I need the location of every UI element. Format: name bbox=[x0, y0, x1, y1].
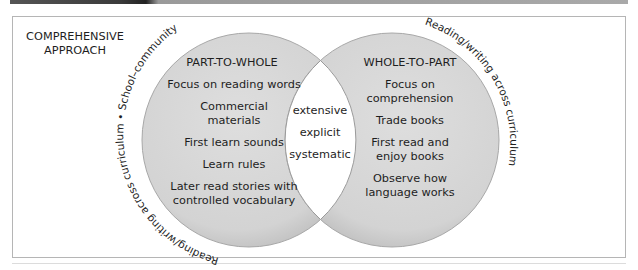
left-heading: PART-TO-WHOLE bbox=[186, 56, 277, 69]
intersection-item: extensive bbox=[293, 104, 348, 117]
left-item: Commercial bbox=[200, 100, 268, 113]
right-item: enjoy books bbox=[376, 150, 444, 163]
left-item: Focus on reading words bbox=[167, 78, 301, 91]
right-item: Trade books bbox=[375, 114, 444, 127]
diagram-title-line1: COMPREHENSIVE bbox=[26, 30, 124, 43]
left-item: Later read stories with bbox=[170, 180, 297, 193]
intersection-item: explicit bbox=[300, 126, 341, 139]
venn-diagram: COMPREHENSIVE APPROACH PART-TO-WHOLE Foc… bbox=[0, 0, 638, 270]
right-item: Observe how bbox=[373, 172, 447, 185]
left-item: controlled vocabulary bbox=[173, 194, 296, 207]
diagram-title-line2: APPROACH bbox=[44, 44, 106, 57]
right-item: First read and bbox=[371, 136, 449, 149]
right-heading: WHOLE-TO-PART bbox=[364, 56, 457, 69]
left-item: materials bbox=[207, 114, 260, 127]
right-item: Focus on bbox=[385, 78, 435, 91]
left-item: Learn rules bbox=[203, 158, 266, 171]
right-item: comprehension bbox=[366, 92, 453, 105]
intersection-item: systematic bbox=[289, 148, 351, 161]
right-item: language works bbox=[365, 186, 455, 199]
left-item: First learn sounds bbox=[184, 136, 284, 149]
